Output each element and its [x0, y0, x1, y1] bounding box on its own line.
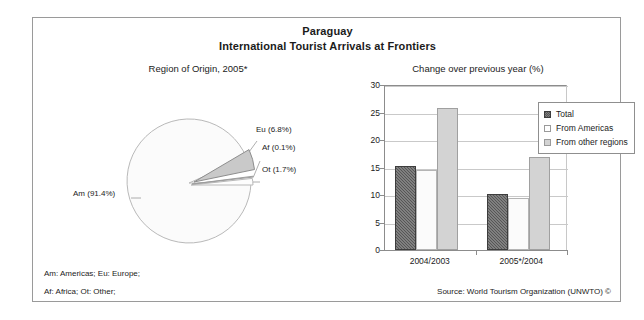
pie-label-af: Af (0.1%): [262, 143, 295, 152]
y-axis-tick-label: 0: [358, 245, 380, 255]
y-axis-tick-mark: [380, 223, 384, 224]
x-axis-tick-mark: [567, 251, 568, 255]
pie-label-am: Am (91.4%): [73, 189, 115, 198]
chart-frame: Paraguay International Tourist Arrivals …: [32, 17, 621, 302]
footnote-line-1: Am: Americas; Eu: Europe;: [44, 269, 140, 278]
page-subtitle: International Tourist Arrivals at Fronti…: [33, 40, 622, 52]
x-axis-label: 2004/2003: [384, 256, 476, 266]
y-axis-tick-mark: [380, 168, 384, 169]
pie-label-ot: Ot (1.7%): [262, 165, 296, 174]
screenshot-root: Paraguay International Tourist Arrivals …: [0, 0, 644, 320]
bar-americas-2: [508, 198, 529, 250]
y-axis-tick-mark: [380, 250, 384, 251]
x-axis-label: 2005*/2004: [476, 256, 568, 266]
gridline: [385, 86, 568, 87]
y-axis-tick-mark: [380, 85, 384, 86]
bar-other-1: [437, 108, 458, 250]
bar-total-2: [487, 194, 508, 250]
legend-swatch-icon: [544, 139, 551, 146]
y-axis-tick-label: 20: [358, 135, 380, 145]
y-axis-tick-label: 25: [358, 108, 380, 118]
legend-item-3[interactable]: From other regions: [544, 135, 628, 149]
bar-total-1: [395, 166, 416, 250]
y-axis-tick-label: 30: [358, 80, 380, 90]
legend-item-label: From Americas: [556, 123, 613, 133]
source-attribution: Source: World Tourism Organization (UNWT…: [437, 287, 611, 296]
legend-item-label: Total: [556, 109, 574, 119]
pie-chart-title: Region of Origin, 2005*: [93, 63, 303, 74]
legend-swatch-icon: [544, 111, 551, 118]
bar-chart-title: Change over previous year (%): [363, 63, 593, 74]
pie-label-eu: Eu (6.8%): [256, 125, 292, 134]
legend-item-label: From other regions: [556, 137, 628, 147]
bar-chart: 051015202530 2004/20032005*/2004 TotalFr…: [333, 80, 618, 280]
y-axis-tick-mark: [380, 113, 384, 114]
y-axis-tick-mark: [380, 195, 384, 196]
page-title: Paraguay: [33, 25, 622, 37]
legend-item-1[interactable]: Total: [544, 107, 628, 121]
footnote-line-2: Af: Africa; Ot: Other;: [44, 287, 116, 296]
leader-line-eu: [249, 141, 257, 152]
legend-item-2[interactable]: From Americas: [544, 121, 628, 135]
bar-chart-legend: TotalFrom AmericasFrom other regions: [538, 102, 635, 154]
legend-swatch-icon: [544, 125, 551, 132]
y-axis-tick-label: 5: [358, 218, 380, 228]
y-axis-tick-label: 10: [358, 190, 380, 200]
bar-other-2: [529, 157, 550, 251]
bar-americas-1: [416, 170, 437, 250]
pie-chart: Eu (6.8%) Af (0.1%) Ot (1.7%) Am (91.4%): [81, 86, 331, 261]
y-axis-tick-mark: [380, 140, 384, 141]
x-axis-tick-mark: [476, 251, 477, 255]
y-axis-tick-label: 15: [358, 163, 380, 173]
